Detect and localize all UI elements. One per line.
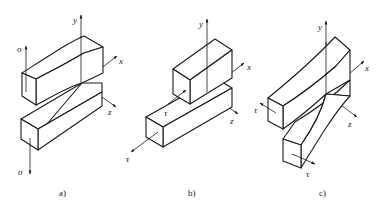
panel-b-caption: b) [188,188,196,198]
panel-a-z-label: z [107,107,112,117]
fracture-modes-figure: y x z σ σ a) y x z τ τ b) [0,0,384,209]
panel-c-tau-lower-label: τ [306,169,310,179]
panel-a: y x z σ σ a) [17,15,123,198]
panel-b-y-label: y [198,19,203,29]
panel-b-z-label: z [229,116,234,126]
panel-a-sigma-bottom-label: σ [18,167,23,177]
panel-a-sigma-top-label: σ [17,44,22,54]
panel-c: y x z τ τ c) [254,21,369,198]
panel-b-tau-lower-label: τ [126,154,130,164]
panel-c-tau-upper-label: τ [254,105,258,115]
panel-c-caption: c) [319,188,326,198]
panel-c-z-label: z [347,119,352,129]
panel-a-caption: a) [59,188,66,198]
panel-b-x-label: x [246,62,251,72]
panel-c-y-label: y [317,22,322,32]
panel-b: y x z τ τ b) [126,19,251,198]
panel-a-x-label: x [118,56,123,66]
panel-c-x-label: x [364,63,369,73]
panel-a-y-label: y [72,15,77,25]
